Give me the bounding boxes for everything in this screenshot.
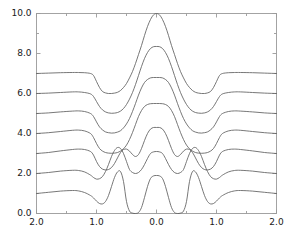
x-tick-label: 1.0 xyxy=(82,217,112,227)
x-tick-label: 1.0 xyxy=(202,217,232,227)
data-curve xyxy=(37,171,277,214)
tick-marks xyxy=(37,14,277,214)
x-tick-label: 2.0 xyxy=(22,217,52,227)
y-tick-label: 2.0 xyxy=(0,168,32,178)
data-curves xyxy=(37,14,277,214)
data-curve xyxy=(37,77,277,133)
y-tick-label: 6.0 xyxy=(0,88,32,98)
y-tick-label: 4.0 xyxy=(0,128,32,138)
plot-border xyxy=(37,14,277,214)
y-tick-label: 8.0 xyxy=(0,48,32,58)
x-tick-label: 0.0 xyxy=(142,217,172,227)
x-tick-label: 2.0 xyxy=(262,217,292,227)
data-curve xyxy=(37,127,277,170)
axis-frame xyxy=(37,14,277,214)
chart-figure: 10.08.06.04.02.00.0 2.01.00.01.02.0 xyxy=(0,0,295,242)
plot-canvas xyxy=(0,0,295,242)
data-curve xyxy=(37,14,277,94)
data-curve xyxy=(37,147,277,179)
y-tick-label: 10.0 xyxy=(0,8,32,18)
